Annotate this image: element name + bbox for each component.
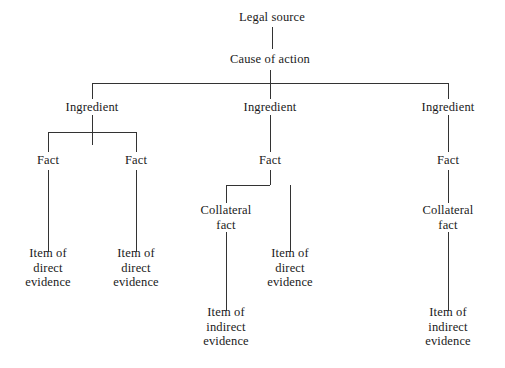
node-ingredient-right: Ingredient [422,100,475,115]
node-fact-middle: Fact [259,153,281,168]
node-direct-evidence-2: Item of direct evidence [113,246,159,290]
node-direct-evidence-3: Item of direct evidence [267,246,313,290]
node-fact-left-2: Fact [125,153,147,168]
node-ingredient-left: Ingredient [66,100,119,115]
node-indirect-evidence-1: Item of indirect evidence [203,305,249,349]
legal-source-diagram: Legal sourceCause of actionIngredientIng… [0,0,505,368]
node-cause-of-action: Cause of action [230,52,310,67]
node-ingredient-middle: Ingredient [244,100,297,115]
node-collateral-fact-right: Collateral fact [423,203,474,232]
node-fact-left-1: Fact [37,153,59,168]
node-indirect-evidence-2: Item of indirect evidence [425,305,471,349]
node-legal-source: Legal source [239,10,305,25]
node-fact-right: Fact [437,153,459,168]
node-collateral-fact-middle: Collateral fact [201,203,252,232]
node-direct-evidence-1: Item of direct evidence [25,246,71,290]
